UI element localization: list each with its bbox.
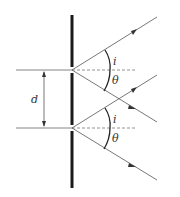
- angle-label-theta-top: θ: [112, 74, 119, 87]
- angle-arc-theta-top: [104, 70, 110, 91]
- arrow-icon: [131, 87, 137, 93]
- arrow-icon: [128, 163, 136, 167]
- angle-arc-theta-bottom: [104, 128, 110, 149]
- separation-label: d: [31, 93, 38, 106]
- arrow-icon: [128, 105, 136, 109]
- arrow-icon: [131, 29, 137, 35]
- angle-arc-i-bottom: [105, 108, 110, 128]
- arrow-down-icon: [42, 121, 46, 127]
- angle-label-theta-bottom: θ: [112, 132, 119, 145]
- angle-label-i-bottom: i: [113, 113, 117, 126]
- arrow-up-icon: [42, 71, 46, 77]
- angle-label-i-top: i: [113, 55, 117, 68]
- angle-arc-i-top: [105, 50, 110, 70]
- separation-arrow: [42, 71, 46, 127]
- double-slit-diagram: d i θ i θ: [0, 0, 180, 197]
